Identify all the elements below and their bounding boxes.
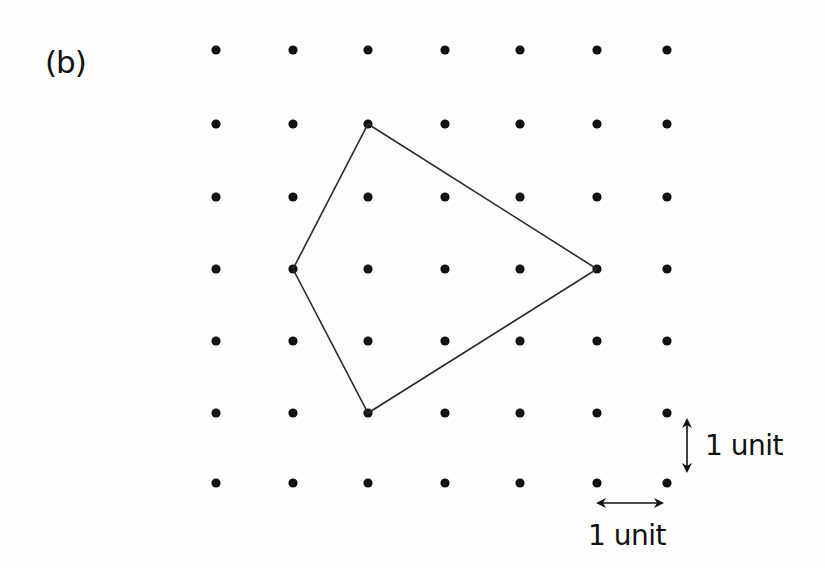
grid-dot bbox=[515, 45, 524, 54]
grid-dot bbox=[515, 336, 524, 345]
grid-dot bbox=[440, 478, 449, 487]
grid-dot bbox=[515, 192, 524, 201]
grid-dot bbox=[515, 119, 524, 128]
grid-dot bbox=[662, 478, 671, 487]
grid-dot bbox=[592, 336, 601, 345]
grid-dot bbox=[440, 264, 449, 273]
grid-dot bbox=[211, 45, 220, 54]
grid-dot bbox=[211, 408, 220, 417]
grid-dot bbox=[363, 336, 372, 345]
grid-dot bbox=[211, 478, 220, 487]
grid-dot bbox=[288, 336, 297, 345]
grid-dot bbox=[440, 408, 449, 417]
horizontal-unit-label: 1 unit bbox=[588, 520, 666, 552]
grid-dot bbox=[592, 119, 601, 128]
grid-dot bbox=[211, 192, 220, 201]
grid-dot bbox=[662, 45, 671, 54]
grid-dot bbox=[515, 408, 524, 417]
grid-dot bbox=[440, 45, 449, 54]
grid-dot bbox=[662, 192, 671, 201]
vertical-unit-label: 1 unit bbox=[705, 430, 783, 462]
grid-dot bbox=[211, 264, 220, 273]
grid-dot bbox=[211, 119, 220, 128]
grid-dot bbox=[592, 478, 601, 487]
grid-dot bbox=[363, 192, 372, 201]
grid-dot bbox=[288, 408, 297, 417]
grid-dot bbox=[592, 45, 601, 54]
grid-dot bbox=[288, 119, 297, 128]
grid-dot bbox=[288, 192, 297, 201]
grid-dot bbox=[288, 478, 297, 487]
grid-dot bbox=[363, 45, 372, 54]
grid-dot bbox=[440, 336, 449, 345]
grid-dot bbox=[440, 192, 449, 201]
grid-dot bbox=[515, 478, 524, 487]
grid-dot bbox=[662, 264, 671, 273]
grid-dot bbox=[363, 478, 372, 487]
grid-dots bbox=[211, 45, 671, 487]
grid-dot bbox=[592, 408, 601, 417]
grid-dot bbox=[288, 45, 297, 54]
grid-dot bbox=[662, 408, 671, 417]
grid-dot bbox=[515, 264, 524, 273]
grid-dot bbox=[662, 119, 671, 128]
grid-dot bbox=[363, 264, 372, 273]
grid-dot bbox=[662, 336, 671, 345]
dot-grid-diagram bbox=[0, 0, 825, 568]
grid-dot bbox=[440, 119, 449, 128]
grid-dot bbox=[592, 192, 601, 201]
grid-dot bbox=[211, 336, 220, 345]
dot-grid-figure: (b) 1 unit 1 unit bbox=[0, 0, 825, 568]
